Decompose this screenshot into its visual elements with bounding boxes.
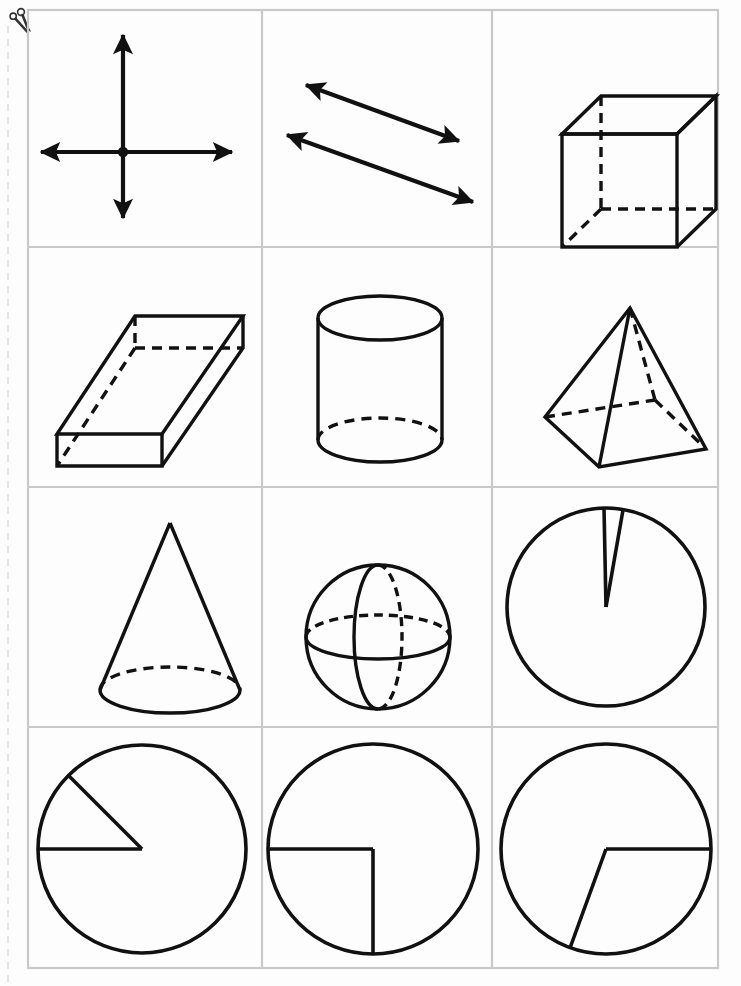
worksheet-page bbox=[0, 0, 741, 986]
angle-radius-start bbox=[604, 508, 606, 607]
page-background bbox=[0, 0, 741, 986]
worksheet-canvas bbox=[0, 0, 741, 986]
intersection-point bbox=[118, 147, 128, 157]
